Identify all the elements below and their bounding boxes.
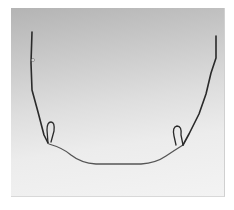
right-arm — [183, 36, 216, 145]
bottom-arch — [49, 144, 183, 164]
left-loop — [47, 122, 54, 143]
orthodontic-wire-illustration — [11, 8, 224, 196]
left-arm — [31, 32, 48, 143]
left-hook — [32, 59, 35, 62]
right-loop — [173, 126, 183, 145]
wire-photograph — [11, 8, 225, 197]
